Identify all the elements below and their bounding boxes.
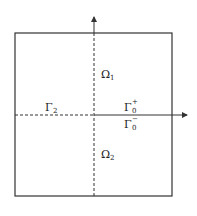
omega1-label: Ω 1 bbox=[101, 68, 114, 82]
omega2-label: Ω 2 bbox=[101, 148, 114, 162]
svg-text:0: 0 bbox=[132, 124, 136, 132]
svg-text:Ω: Ω bbox=[101, 148, 110, 161]
domain-diagram: Ω 1 Ω 2 Γ 2 Γ 0 + Γ 0 − bbox=[0, 0, 197, 216]
svg-text:Ω: Ω bbox=[101, 68, 110, 81]
svg-text:−: − bbox=[132, 115, 138, 123]
svg-text:0: 0 bbox=[132, 107, 136, 115]
svg-text:2: 2 bbox=[110, 154, 114, 162]
gamma0-minus-label: Γ 0 − bbox=[124, 115, 138, 132]
svg-text:Γ: Γ bbox=[45, 101, 53, 114]
svg-text:1: 1 bbox=[110, 74, 114, 82]
svg-text:2: 2 bbox=[53, 107, 57, 115]
svg-text:Γ: Γ bbox=[124, 101, 132, 114]
svg-text:Γ: Γ bbox=[124, 118, 132, 131]
gamma2-label: Γ 2 bbox=[45, 101, 57, 115]
gamma0-plus-label: Γ 0 + bbox=[124, 98, 138, 115]
svg-text:+: + bbox=[132, 98, 138, 106]
